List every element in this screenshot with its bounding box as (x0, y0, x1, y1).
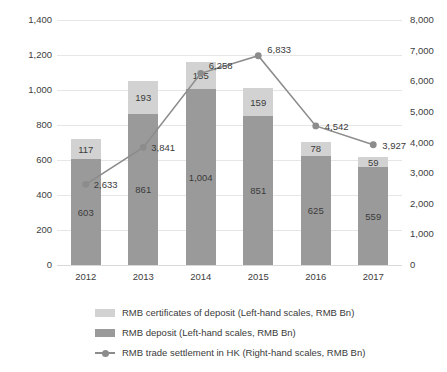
gridline (57, 265, 402, 266)
left-axis-tick-label: 800 (36, 120, 52, 130)
legend-label: RMB certificates of deposit (Left-hand s… (122, 308, 354, 318)
x-axis-tick-label: 2015 (230, 272, 288, 282)
line-data-label: 6,833 (267, 45, 291, 55)
bar-label-certificates: 59 (358, 158, 388, 168)
combo-chart: 6031178611931,0041558511596257855959 2,6… (0, 0, 447, 372)
legend-label: RMB trade settlement in HK (Right-hand s… (122, 348, 365, 358)
left-axis-tick-label: 1,000 (28, 85, 52, 95)
bar-group[interactable]: 1,004155 (186, 20, 216, 265)
right-axis-tick-label: 8,000 (410, 15, 434, 25)
gridline (57, 195, 402, 196)
x-axis-tick-label: 2012 (57, 272, 115, 282)
right-axis-tick-label: 5,000 (410, 107, 434, 117)
right-axis-tick-label: 0 (410, 260, 415, 270)
chart-legend: RMB certificates of deposit (Left-hand s… (95, 303, 435, 363)
right-axis-tick-label: 2,000 (410, 199, 434, 209)
bar-label-certificates: 193 (128, 93, 158, 103)
right-axis-tick-label: 4,000 (410, 138, 434, 148)
line-data-label: 3,927 (382, 141, 406, 151)
bar-label-certificates: 117 (71, 145, 101, 155)
x-axis-tick-label: 2013 (115, 272, 173, 282)
bar-label-deposit: 625 (301, 206, 331, 216)
bar-label-deposit: 851 (243, 186, 273, 196)
bar-label-certificates: 78 (301, 144, 331, 154)
bar-label-deposit: 1,004 (186, 173, 216, 183)
right-axis-tick-label: 6,000 (410, 76, 434, 86)
right-axis-tick-label: 7,000 (410, 46, 434, 56)
bar-label-deposit: 559 (358, 212, 388, 222)
gridline (57, 90, 402, 91)
left-axis-tick-label: 1,400 (28, 15, 52, 25)
gridline (57, 55, 402, 56)
legend-swatch-icon (95, 309, 115, 317)
gridline (57, 230, 402, 231)
legend-item[interactable]: RMB trade settlement in HK (Right-hand s… (95, 343, 435, 363)
legend-item[interactable]: RMB certificates of deposit (Left-hand s… (95, 303, 435, 323)
left-axis-tick-label: 0 (47, 260, 52, 270)
bar-label-deposit: 603 (71, 208, 101, 218)
legend-line-marker-icon (95, 348, 115, 358)
legend-label: RMB deposit (Left-hand scales, RMB Bn) (122, 328, 296, 338)
gridline (57, 20, 402, 21)
left-axis-tick-label: 600 (36, 155, 52, 165)
legend-item[interactable]: RMB deposit (Left-hand scales, RMB Bn) (95, 323, 435, 343)
left-axis-tick-label: 400 (36, 190, 52, 200)
bar-group[interactable]: 62578 (301, 20, 331, 265)
x-axis-tick-label: 2014 (172, 272, 230, 282)
left-axis-tick-label: 1,200 (28, 50, 52, 60)
x-axis-tick-label: 2017 (345, 272, 403, 282)
bar-group[interactable]: 851159 (243, 20, 273, 265)
bar-label-deposit: 861 (128, 185, 158, 195)
left-axis-tick-label: 200 (36, 225, 52, 235)
right-axis-tick-label: 1,000 (410, 229, 434, 239)
line-data-label: 2,633 (94, 180, 118, 190)
gridline (57, 160, 402, 161)
plot-area: 6031178611931,0041558511596257855959 2,6… (57, 20, 402, 265)
line-data-label: 3,841 (151, 143, 175, 153)
gridline (57, 125, 402, 126)
line-data-label: 6,258 (209, 61, 233, 71)
line-data-label: 4,542 (325, 122, 349, 132)
x-axis-tick-label: 2016 (287, 272, 345, 282)
bar-label-certificates: 155 (186, 71, 216, 81)
right-axis-tick-label: 3,000 (410, 168, 434, 178)
bar-group[interactable]: 603117 (71, 20, 101, 265)
line-series (57, 20, 402, 265)
legend-swatch-icon (95, 329, 115, 337)
bar-label-certificates: 159 (243, 98, 273, 108)
